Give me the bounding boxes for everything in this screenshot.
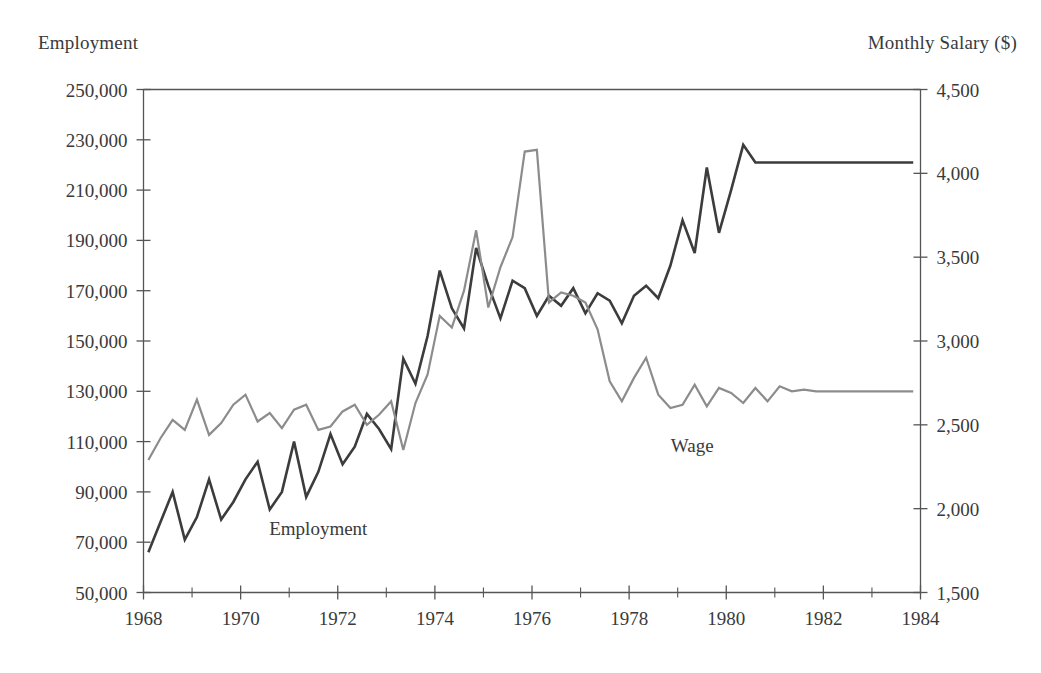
y2-tick-label: 2,000 [937, 499, 980, 520]
y-tick-label: 190,000 [66, 230, 128, 251]
y-tick-label: 50,000 [75, 583, 127, 604]
x-tick-label: 1972 [319, 608, 357, 629]
y-tick-label: 110,000 [66, 432, 127, 453]
y2-tick-label: 4,000 [937, 163, 980, 184]
y2-tick-label: 1,500 [937, 583, 980, 604]
y2-tick-label: 4,500 [937, 80, 980, 101]
chart-container: Employment Monthly Salary ($) 50,00070,0… [0, 0, 1041, 673]
right-y-axis: 1,5002,0002,5003,0003,5004,0004,500 [914, 80, 980, 604]
y-tick-label: 230,000 [66, 130, 128, 151]
dual-axis-line-chart: 50,00070,00090,000110,000130,000150,0001… [0, 0, 1041, 673]
series-lines [148, 145, 913, 552]
series-label-employment: Employment [269, 518, 368, 539]
y2-tick-label: 3,000 [937, 331, 980, 352]
x-tick-label: 1984 [902, 608, 941, 629]
y2-tick-label: 3,500 [937, 247, 980, 268]
series-label-wage: Wage [671, 435, 714, 456]
series-line-employment [148, 145, 913, 552]
x-tick-label: 1978 [610, 608, 648, 629]
y-tick-label: 90,000 [75, 482, 127, 503]
x-tick-label: 1974 [416, 608, 455, 629]
y-tick-label: 250,000 [66, 80, 128, 101]
left-axis-title: Employment [38, 32, 138, 54]
y2-tick-label: 2,500 [937, 415, 980, 436]
y-tick-label: 210,000 [66, 180, 128, 201]
y-tick-label: 130,000 [66, 381, 128, 402]
x-tick-label: 1968 [125, 608, 163, 629]
x-tick-label: 1976 [513, 608, 551, 629]
x-axis: 196819701972197419761978198019821984 [125, 586, 941, 629]
y-tick-label: 170,000 [66, 281, 128, 302]
y-tick-label: 150,000 [66, 331, 128, 352]
x-tick-label: 1970 [222, 608, 260, 629]
x-tick-label: 1982 [804, 608, 842, 629]
x-tick-label: 1980 [707, 608, 745, 629]
y-tick-label: 70,000 [75, 532, 127, 553]
right-axis-title: Monthly Salary ($) [868, 32, 1017, 54]
